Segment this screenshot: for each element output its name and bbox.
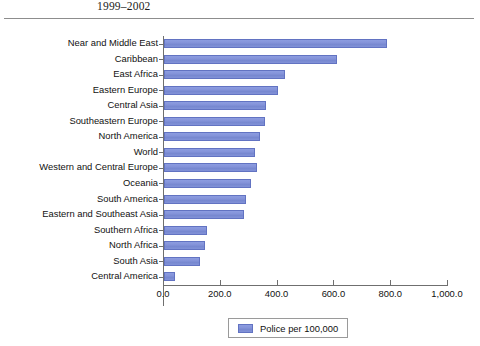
- bar-row: Central Asia: [0, 98, 480, 114]
- bar: [164, 39, 387, 48]
- category-label: Southern Africa: [94, 224, 158, 236]
- bar-row: North Africa: [0, 238, 480, 254]
- bar-row: Central America: [0, 269, 480, 285]
- bar-row: Oceania: [0, 176, 480, 192]
- category-label: World: [134, 146, 158, 158]
- figure-caption-period: 1999–2002: [97, 0, 151, 12]
- value-axis-tick: [390, 280, 391, 286]
- category-label: Central Asia: [107, 99, 158, 111]
- category-tick: [159, 261, 163, 262]
- category-label: Oceania: [123, 177, 158, 189]
- bar-row: North America: [0, 129, 480, 145]
- category-tick: [159, 230, 163, 231]
- bar-row: Caribbean: [0, 52, 480, 68]
- bar: [164, 117, 265, 126]
- bar: [164, 257, 200, 266]
- category-tick: [159, 199, 163, 200]
- bar-row: South America: [0, 192, 480, 208]
- category-label: Near and Middle East: [68, 37, 158, 49]
- category-tick: [159, 75, 163, 76]
- value-axis-tick-label: 800.0: [378, 288, 401, 299]
- bar: [164, 272, 175, 281]
- value-axis-tick: [333, 280, 334, 286]
- bar: [164, 132, 260, 141]
- bar-row: Eastern Europe: [0, 83, 480, 99]
- bar: [164, 226, 207, 235]
- bar-row: Southeastern Europe: [0, 114, 480, 130]
- chart-legend: Police per 100,000: [228, 318, 348, 338]
- category-tick: [159, 59, 163, 60]
- bar: [164, 241, 205, 250]
- bar-row: Southern Africa: [0, 223, 480, 239]
- legend-swatch-police: [238, 324, 253, 333]
- category-tick: [159, 183, 163, 184]
- category-label: East Africa: [113, 68, 158, 80]
- value-axis-tick: [277, 280, 278, 286]
- bar-row: Western and Central Europe: [0, 160, 480, 176]
- category-tick: [159, 277, 163, 278]
- bar: [164, 210, 244, 219]
- bar: [164, 55, 337, 64]
- category-tick: [159, 90, 163, 91]
- page-header: 1999–2002: [0, 0, 480, 22]
- category-tick: [159, 106, 163, 107]
- bar: [164, 179, 251, 188]
- value-axis-line: [163, 285, 448, 286]
- category-tick: [159, 152, 163, 153]
- bar: [164, 101, 266, 110]
- value-axis-tick-label: 0.0: [156, 288, 169, 299]
- value-axis-tick-label: 200.0: [208, 288, 231, 299]
- bar: [164, 195, 246, 204]
- bar: [164, 163, 257, 172]
- bar: [164, 70, 285, 79]
- category-label: North America: [99, 130, 158, 142]
- category-label: Eastern Europe: [93, 84, 158, 96]
- value-axis-tick-label: 600.0: [322, 288, 345, 299]
- value-axis-tick-label: 1,000.0: [431, 288, 462, 299]
- header-divider-rule: [4, 18, 474, 19]
- bar-row: World: [0, 145, 480, 161]
- category-label: Caribbean: [115, 53, 158, 65]
- bar: [164, 86, 278, 95]
- bar-row: Near and Middle East: [0, 36, 480, 52]
- value-axis-tick: [447, 280, 448, 286]
- category-tick: [159, 215, 163, 216]
- bar-row: East Africa: [0, 67, 480, 83]
- category-label: North Africa: [109, 239, 158, 251]
- category-label: South America: [97, 193, 158, 205]
- bar: [164, 148, 255, 157]
- category-tick: [159, 168, 163, 169]
- category-label: South Asia: [113, 255, 158, 267]
- value-axis-tick-label: 400.0: [265, 288, 288, 299]
- bar-row: South Asia: [0, 254, 480, 270]
- category-label: Central America: [91, 270, 158, 282]
- bar-chart: Near and Middle EastCaribbeanEast Africa…: [0, 22, 480, 346]
- bar-row: Eastern and Southeast Asia: [0, 207, 480, 223]
- category-tick: [159, 121, 163, 122]
- category-label: Eastern and Southeast Asia: [42, 208, 158, 220]
- value-axis-tick: [163, 280, 164, 286]
- category-label: Western and Central Europe: [39, 161, 158, 173]
- category-tick: [159, 44, 163, 45]
- value-axis-tick: [220, 280, 221, 286]
- category-label: Southeastern Europe: [69, 115, 158, 127]
- category-tick: [159, 137, 163, 138]
- legend-label-police: Police per 100,000: [260, 323, 338, 334]
- category-tick: [159, 246, 163, 247]
